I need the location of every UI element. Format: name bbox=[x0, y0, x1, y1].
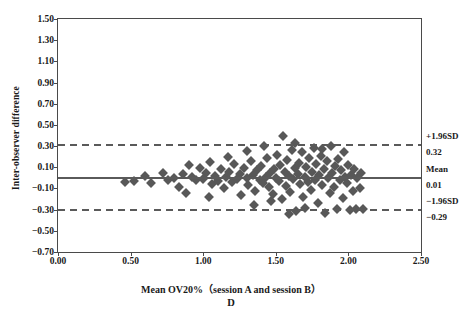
data-point bbox=[300, 203, 310, 213]
y-axis-tick-label: 1.10 bbox=[37, 56, 54, 66]
data-point bbox=[251, 186, 261, 196]
plot-area: 1.501.301.100.900.700.500.300.10−0.10−0.… bbox=[57, 18, 422, 253]
annotation-upper-loa-value: 0.32 bbox=[426, 147, 442, 157]
y-axis-tick-mark bbox=[54, 19, 58, 20]
y-axis-tick-label: −0.30 bbox=[32, 205, 54, 215]
reference-line-mean bbox=[58, 177, 421, 179]
annotation-lower-loa-value: −0.29 bbox=[426, 212, 447, 222]
y-axis-tick-label: 0.90 bbox=[37, 78, 54, 88]
annotation-mean-value: 0.01 bbox=[426, 180, 442, 190]
y-axis-tick-label: 0.70 bbox=[37, 99, 54, 109]
y-axis-tick-label: −0.50 bbox=[32, 226, 54, 236]
y-axis-tick-label: 1.50 bbox=[37, 14, 54, 24]
x-axis-tick-mark bbox=[131, 252, 132, 256]
data-point bbox=[317, 180, 327, 190]
data-point bbox=[246, 156, 256, 166]
reference-line-upper-loa bbox=[58, 144, 421, 146]
data-point bbox=[272, 150, 282, 160]
y-axis-tick-mark bbox=[54, 231, 58, 232]
data-point bbox=[262, 153, 272, 163]
x-axis-tick-label: 1.50 bbox=[267, 256, 284, 266]
y-axis-tick-mark bbox=[54, 61, 58, 62]
annotation-upper-loa-label: +1.96SD bbox=[426, 131, 458, 141]
x-axis-tick-mark bbox=[203, 252, 204, 256]
data-point bbox=[204, 192, 214, 202]
x-axis-tick-label: 0.50 bbox=[122, 256, 139, 266]
y-axis-tick-label: 1.30 bbox=[37, 35, 54, 45]
data-point bbox=[219, 184, 229, 194]
bland-altman-chart: Inter-observer difference 1.501.301.100.… bbox=[0, 0, 462, 320]
y-axis-tick-mark bbox=[54, 104, 58, 105]
x-axis-tick-mark bbox=[421, 252, 422, 256]
data-point bbox=[236, 190, 246, 200]
y-axis-tick-mark bbox=[54, 125, 58, 126]
y-axis-tick-mark bbox=[54, 83, 58, 84]
panel-label: D bbox=[0, 297, 462, 308]
y-axis-tick-label: 0.10 bbox=[37, 162, 54, 172]
x-axis-tick-mark bbox=[276, 252, 277, 256]
data-point bbox=[313, 198, 323, 208]
x-axis-tick-label: 0.00 bbox=[50, 256, 67, 266]
data-point bbox=[181, 188, 191, 198]
y-axis-title: Inter-observer difference bbox=[8, 53, 24, 223]
x-axis-tick-mark bbox=[348, 252, 349, 256]
data-point bbox=[338, 193, 348, 203]
data-point bbox=[206, 157, 216, 167]
x-axis-title: Mean OV20%（session A and session B） bbox=[0, 281, 462, 296]
data-point bbox=[266, 196, 276, 206]
data-point bbox=[184, 160, 194, 170]
x-axis-tick-mark bbox=[58, 252, 59, 256]
data-point bbox=[146, 178, 156, 188]
y-axis-tick-mark bbox=[54, 40, 58, 41]
y-axis-title-text: Inter-observer difference bbox=[11, 86, 21, 190]
data-point bbox=[242, 146, 252, 156]
reference-line-lower-loa bbox=[58, 209, 421, 211]
data-point bbox=[277, 194, 287, 204]
y-axis-tick-label: 0.50 bbox=[37, 120, 54, 130]
y-axis-tick-mark bbox=[54, 188, 58, 189]
y-axis-tick-mark bbox=[54, 167, 58, 168]
x-axis-tick-label: 2.00 bbox=[340, 256, 357, 266]
annotation-mean-label: Mean bbox=[426, 164, 448, 174]
y-axis-tick-label: 0.30 bbox=[37, 141, 54, 151]
y-axis-tick-label: −0.10 bbox=[32, 183, 54, 193]
x-axis-tick-label: 2.50 bbox=[413, 256, 430, 266]
data-point bbox=[278, 131, 288, 141]
data-point bbox=[298, 192, 308, 202]
annotation-lower-loa-label: −1.96SD bbox=[426, 196, 458, 206]
x-axis-tick-label: 1.00 bbox=[195, 256, 212, 266]
